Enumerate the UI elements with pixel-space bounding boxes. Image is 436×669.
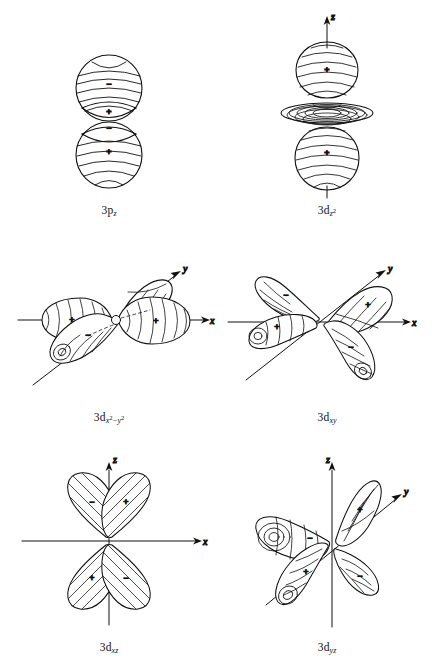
orbital-label-subscript: x2−y2: [106, 416, 125, 425]
sign-upper-left-minus: −: [307, 533, 312, 543]
sign-upper-right-plus: +: [123, 497, 128, 507]
orbital-panel-3dz2: z +: [218, 0, 436, 232]
orbital-label-base: 3d: [318, 641, 330, 653]
orbital-label-3pz: 3pz: [101, 205, 116, 218]
sign-lower-right-minus: −: [348, 342, 353, 352]
orbital-panel-3dx2y2: x y +: [0, 232, 218, 437]
orbital-diagram-3dz2: z +: [218, 0, 436, 205]
orbital-label-3dx2y2: 3dx2−y2: [94, 412, 125, 425]
orbital-figure-grid: − + − + 3pz: [0, 0, 436, 669]
orbital-label-3dyz: 3dyz: [318, 642, 337, 655]
orbital-label-3dz2: 3dz2: [318, 205, 336, 218]
sign-right-plus: +: [153, 316, 158, 326]
sign-top-plus: +: [324, 65, 329, 75]
orbital-label-subscript: z2: [330, 209, 336, 218]
axis-label-z: z: [112, 454, 117, 465]
orbital-label-base: 3d: [317, 411, 329, 423]
sign-lower-minus: −: [106, 123, 111, 133]
orbital-panel-3dyz: z y +: [218, 437, 436, 669]
sign-upper-left-minus: −: [283, 290, 288, 300]
axis-label-y: y: [182, 263, 188, 274]
sign-lower-left-plus: +: [89, 573, 94, 583]
sign-upper-minus: −: [106, 79, 111, 89]
lobe-lower-left-outline: [249, 315, 317, 349]
orbital-label-3dxz: 3dxz: [100, 642, 119, 655]
axis-label-z: z: [325, 454, 330, 465]
orbital-label-base: 3p: [101, 204, 113, 216]
orbital-label-subscript: z: [113, 209, 116, 218]
orbital-panel-3pz: − + − + 3pz: [0, 0, 218, 232]
axis-label-x: x: [411, 317, 417, 328]
orbital-panel-3dxz: z x −: [0, 437, 218, 669]
axis-label-x: x: [202, 536, 208, 547]
orbital-label-subscript: xz: [112, 646, 119, 655]
sign-upper-right-plus: +: [365, 300, 370, 310]
sign-upper-right-plus: +: [357, 505, 362, 515]
orbital-label-base: 3d: [94, 411, 106, 423]
sign-lower-left-plus: +: [274, 322, 279, 332]
orbital-label-subscript: xy: [329, 416, 336, 425]
orbital-panel-3dxy: x y − +: [218, 232, 436, 437]
axis-label-z: z: [330, 11, 335, 22]
lobe-bottom-outline: [295, 127, 359, 190]
orbital-diagram-3dyz: z y +: [218, 437, 436, 642]
sign-lower-right-minus: −: [357, 571, 362, 581]
axis-label-y: y: [403, 486, 409, 497]
sign-upper-left-minus: −: [89, 497, 94, 507]
nucleus: [112, 316, 121, 325]
orbital-diagram-3dxz: z x −: [0, 437, 218, 642]
sign-lower-left-plus: +: [303, 567, 308, 577]
orbital-label-3dxy: 3dxy: [317, 412, 336, 425]
sign-lower-plus: +: [106, 147, 111, 157]
sign-bottom-plus: +: [324, 148, 329, 158]
orbital-diagram-3dx2y2: x y +: [0, 232, 218, 412]
orbital-label-base: 3d: [100, 641, 112, 653]
axis-label-x: x: [209, 315, 215, 326]
lobe-lower-right-outline: [334, 548, 379, 595]
orbital-label-base: 3d: [318, 204, 330, 216]
orbital-diagram-3pz: − + − +: [0, 0, 218, 205]
orbital-label-subscript: yz: [330, 646, 337, 655]
axis-label-y: y: [387, 263, 393, 274]
sign-lower-right-minus: −: [123, 573, 128, 583]
sign-upper-plus: +: [106, 107, 111, 117]
orbital-diagram-3dxy: x y − +: [218, 232, 436, 412]
